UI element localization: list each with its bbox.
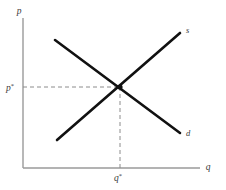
equilibrium-point-marker — [117, 84, 122, 89]
equilibrium-quantity-label: q* — [114, 172, 122, 184]
equilibrium-quantity-label-star: * — [119, 172, 122, 179]
price-axis-label: p — [16, 6, 22, 16]
equilibrium-price-label: p* — [5, 82, 14, 94]
supply-curve-label: s — [186, 25, 190, 35]
supply-demand-figure: p q p* q* s d — [0, 0, 226, 190]
figure-canvas: p q p* q* s d — [0, 0, 226, 190]
demand-curve-label: d — [186, 128, 191, 138]
quantity-axis-label: q — [206, 162, 211, 172]
equilibrium-price-label-star: * — [11, 82, 14, 89]
